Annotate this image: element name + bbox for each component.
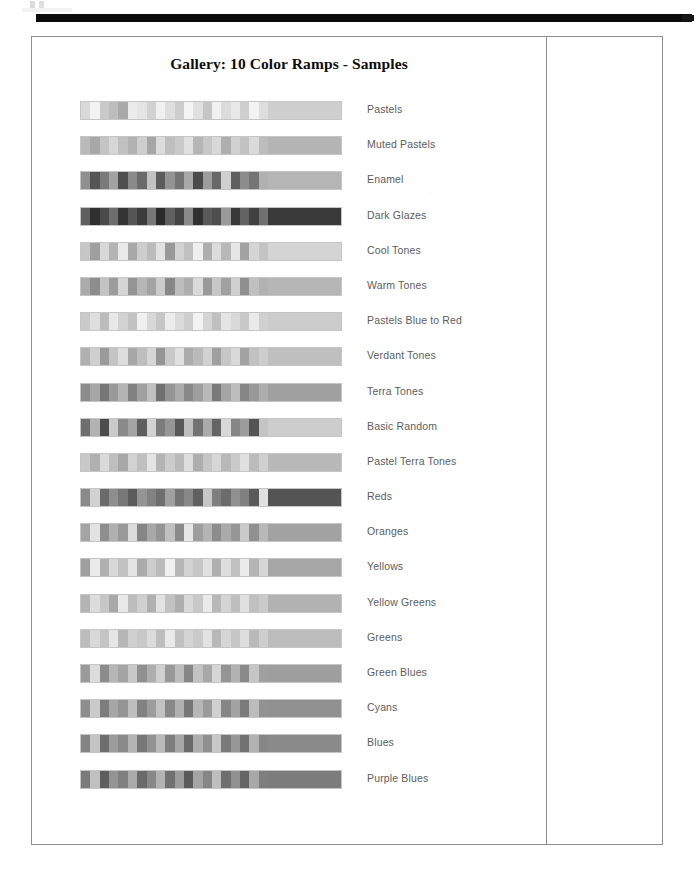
color-ramp-row: Green Blues: [32, 664, 546, 699]
color-ramp-label: Dark Glazes: [367, 209, 426, 221]
color-ramp-swatch: [80, 770, 342, 789]
color-ramp-swatch: [80, 347, 342, 366]
color-ramp-row: Pastels Blue to Red: [32, 312, 546, 347]
color-ramp-row: Pastel Terra Tones: [32, 453, 546, 488]
main-content-column: Gallery: 10 Color Ramps - Samples Pastel…: [32, 37, 547, 844]
color-ramp-label: Pastel Terra Tones: [367, 455, 456, 467]
color-ramp-row: Reds: [32, 488, 546, 523]
color-ramp-swatch: [80, 488, 342, 507]
color-ramp-swatch: [80, 101, 342, 120]
side-panel: [547, 37, 662, 844]
color-ramp-row: Pastels: [32, 101, 546, 136]
color-ramp-row: Blues: [32, 734, 546, 769]
color-ramp-swatch: [80, 523, 342, 542]
color-ramp-swatch: [80, 453, 342, 472]
color-ramp-label: Green Blues: [367, 666, 427, 678]
color-ramp-label: Yellows: [367, 560, 403, 572]
color-ramp-label: Warm Tones: [367, 279, 427, 291]
scan-artifact: [30, 1, 56, 8]
color-ramp-row: Cool Tones: [32, 242, 546, 277]
color-ramp-swatch: [80, 207, 342, 226]
color-ramp-row: Muted Pastels: [32, 136, 546, 171]
color-ramp-swatch: [80, 558, 342, 577]
color-ramp-row: Warm Tones: [32, 277, 546, 312]
color-ramp-row: Cyans: [32, 699, 546, 734]
page-sheet: Gallery: 10 Color Ramps - Samples Pastel…: [31, 36, 663, 845]
color-ramp-row: Verdant Tones: [32, 347, 546, 382]
color-ramp-label: Pastels Blue to Red: [367, 314, 462, 326]
color-ramp-label: Cyans: [367, 701, 398, 713]
color-ramp-row: Purple Blues: [32, 770, 546, 805]
color-ramp-swatch: [80, 418, 342, 437]
color-ramp-swatch: [80, 699, 342, 718]
color-ramp-label: Yellow Greens: [367, 596, 436, 608]
color-ramp-list: PastelsMuted PastelsEnamelDark GlazesCoo…: [32, 101, 546, 805]
color-ramp-row: Dark Glazes: [32, 207, 546, 242]
color-ramp-label: Blues: [367, 736, 394, 748]
color-ramp-label: Reds: [367, 490, 392, 502]
color-ramp-swatch: [80, 594, 342, 613]
color-ramp-swatch: [80, 664, 342, 683]
color-ramp-row: Oranges: [32, 523, 546, 558]
color-ramp-swatch: [80, 136, 342, 155]
color-ramp-row: Yellows: [32, 558, 546, 593]
page-title: Gallery: 10 Color Ramps - Samples: [32, 55, 546, 73]
color-ramp-label: Oranges: [367, 525, 408, 537]
color-ramp-label: Basic Random: [367, 420, 437, 432]
color-ramp-row: Yellow Greens: [32, 594, 546, 629]
color-ramp-label: Cool Tones: [367, 244, 421, 256]
color-ramp-swatch: [80, 242, 342, 261]
color-ramp-label: Pastels: [367, 103, 402, 115]
color-ramp-row: Greens: [32, 629, 546, 664]
color-ramp-row: Basic Random: [32, 418, 546, 453]
color-ramp-swatch: [80, 171, 342, 190]
color-ramp-label: Muted Pastels: [367, 138, 435, 150]
scan-artifact-secondary: [22, 8, 72, 12]
top-horizontal-rule: [36, 14, 692, 22]
color-ramp-row: Enamel: [32, 171, 546, 206]
color-ramp-label: Greens: [367, 631, 402, 643]
color-ramp-swatch: [80, 629, 342, 648]
color-ramp-swatch: [80, 383, 342, 402]
color-ramp-swatch: [80, 312, 342, 331]
color-ramp-swatch: [80, 734, 342, 753]
color-ramp-label: Verdant Tones: [367, 349, 436, 361]
color-ramp-label: Purple Blues: [367, 772, 428, 784]
color-ramp-label: Enamel: [367, 173, 404, 185]
color-ramp-swatch: [80, 277, 342, 296]
top-horizontal-rule-tail: [682, 15, 694, 21]
color-ramp-label: Terra Tones: [367, 385, 423, 397]
color-ramp-row: Terra Tones: [32, 383, 546, 418]
